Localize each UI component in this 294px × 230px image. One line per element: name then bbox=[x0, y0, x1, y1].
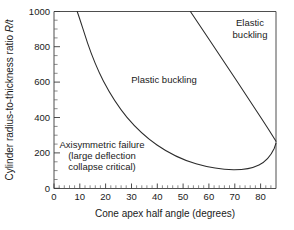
chart-figure: 0 200 400 600 800 1000 0 10 20 30 40 50 … bbox=[0, 0, 294, 230]
y-tick-label: 600 bbox=[34, 76, 50, 87]
x-tick-label: 50 bbox=[178, 191, 189, 202]
y-axis-title: Cylinder radius-to-thickness ratio R/t bbox=[4, 18, 15, 180]
x-tick-labels: 0 10 20 30 40 50 60 70 80 bbox=[51, 191, 266, 202]
y-axis-title-main: Cylinder radius-to-thickness ratio bbox=[4, 32, 15, 180]
y-tick-label: 1000 bbox=[29, 6, 50, 17]
elastic-buckling-line-1: Elastic bbox=[236, 17, 264, 28]
x-tick-label: 10 bbox=[75, 191, 86, 202]
axisymmetric-failure-line-3: collapse critical) bbox=[68, 161, 136, 172]
elastic-buckling-line-2: buckling bbox=[233, 29, 268, 40]
elastic-buckling-annotation: Elastic buckling bbox=[233, 17, 268, 40]
x-tick-label: 20 bbox=[100, 191, 111, 202]
y-tick-label: 400 bbox=[34, 112, 50, 123]
plastic-buckling-annotation: Plastic buckling bbox=[131, 74, 196, 85]
axisymmetric-failure-annotation: Axisymmetric failure (large deflection c… bbox=[60, 139, 145, 172]
x-tick-label: 40 bbox=[152, 191, 163, 202]
y-axis-title-symbol: R/t bbox=[4, 18, 15, 32]
axisymmetric-failure-line-2: (large deflection bbox=[68, 150, 136, 161]
x-tick-label: 30 bbox=[126, 191, 137, 202]
y-axis-title-group: Cylinder radius-to-thickness ratio R/t bbox=[4, 18, 15, 180]
axisymmetric-failure-line-1: Axisymmetric failure bbox=[60, 139, 145, 150]
y-tick-label: 800 bbox=[34, 41, 50, 52]
y-tick-label: 200 bbox=[34, 147, 50, 158]
y-tick-label: 0 bbox=[45, 183, 50, 194]
buckling-regime-chart: 0 200 400 600 800 1000 0 10 20 30 40 50 … bbox=[0, 0, 294, 230]
x-tick-label: 60 bbox=[204, 191, 215, 202]
x-tick-label: 70 bbox=[230, 191, 241, 202]
plastic-buckling-label: Plastic buckling bbox=[131, 74, 196, 85]
x-tick-label: 0 bbox=[51, 191, 56, 202]
x-axis-title: Cone apex half angle (degrees) bbox=[95, 208, 235, 219]
x-tick-label: 80 bbox=[255, 191, 266, 202]
